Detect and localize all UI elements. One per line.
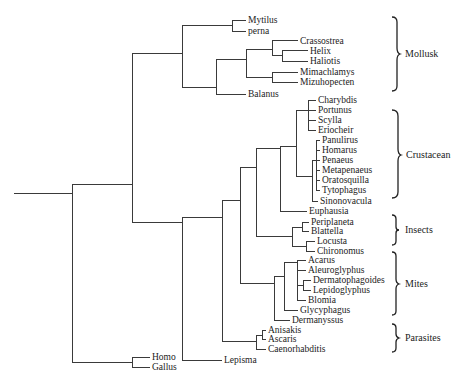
brace-insects xyxy=(392,215,399,245)
brace-mollusk xyxy=(392,17,400,91)
leaf-sinonovacula: Sinonovacula xyxy=(320,196,372,206)
leaf-perna: perna xyxy=(248,26,270,36)
leaf-penaeus: Penaeus xyxy=(322,155,353,165)
group-braces: Mollusk Crustacean Insects Mites Parasit… xyxy=(392,17,450,352)
leaf-dermanyssus: Dermanyssus xyxy=(292,315,343,325)
leaf-oratosquilla: Oratosquilla xyxy=(322,175,370,185)
brace-mites xyxy=(392,252,399,315)
leaf-tytophagus: Tytophagus xyxy=(322,185,366,195)
leaf-homarus: Homarus xyxy=(322,145,357,155)
leaf-labels: Mytilus perna Crassostrea Helix Haliotis… xyxy=(152,15,385,372)
group-label-crustacean: Crustacean xyxy=(406,149,450,160)
leaf-gallus: Gallus xyxy=(152,362,177,372)
leaf-panulirus: Panulirus xyxy=(322,135,358,145)
leaf-dermatophagoides: Dermatophagoides xyxy=(313,275,385,285)
leaf-scylla: Scylla xyxy=(318,115,343,125)
leaf-glycyphagus: Glycyphagus xyxy=(300,305,350,315)
phylogenetic-tree: Mytilus perna Crassostrea Helix Haliotis… xyxy=(0,0,466,383)
leaf-homo: Homo xyxy=(152,352,176,362)
leaf-crassostrea: Crassostrea xyxy=(300,36,345,46)
leaf-aleuroglyphus: Aleuroglyphus xyxy=(308,265,365,275)
leaf-portunus: Portunus xyxy=(318,105,352,115)
leaf-mytilus: Mytilus xyxy=(248,15,278,25)
leaf-eriocheir: Eriocheir xyxy=(318,125,354,135)
leaf-ascaris: Ascaris xyxy=(268,334,297,344)
leaf-blattella: Blattella xyxy=(311,226,344,236)
leaf-balanus: Balanus xyxy=(248,89,279,99)
leaf-mimachlamys: Mimachlamys xyxy=(300,67,355,77)
leaf-lepisma: Lepisma xyxy=(224,355,257,365)
brace-parasites xyxy=(392,324,399,352)
group-label-parasites: Parasites xyxy=(405,332,441,343)
leaf-charybdis: Charybdis xyxy=(318,95,357,105)
group-label-mites: Mites xyxy=(405,278,428,289)
group-label-insects: Insects xyxy=(405,224,433,235)
leaf-haliotis: Haliotis xyxy=(310,56,340,66)
leaf-metapenaeus: Metapenaeus xyxy=(322,165,372,175)
leaf-euphausia: Euphausia xyxy=(309,206,349,216)
leaf-mizuhopecten: Mizuhopecten xyxy=(300,77,355,87)
leaf-locusta: Locusta xyxy=(317,236,348,246)
group-label-mollusk: Mollusk xyxy=(405,48,438,59)
leaf-helix: Helix xyxy=(310,46,331,56)
brace-crustacean xyxy=(392,110,401,198)
leaf-blomia: Blomia xyxy=(308,295,337,305)
leaf-caenorhabditis: Caenorhabditis xyxy=(268,344,326,354)
leaf-lepidoglyphus: Lepidoglyphus xyxy=(313,285,370,295)
leaf-acarus: Acarus xyxy=(308,255,335,265)
tree-branches xyxy=(14,20,320,367)
